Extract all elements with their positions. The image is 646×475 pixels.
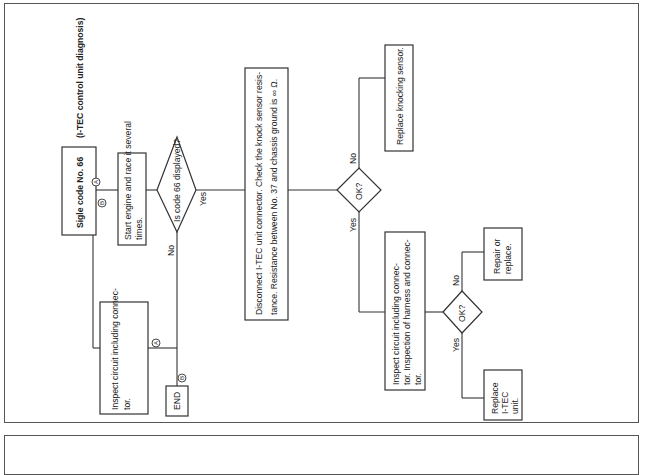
svg-text:Disconnect I-TEC unit connecto: Disconnect I-TEC unit connector. Check t… xyxy=(254,72,264,315)
repair-replace-box: Repair or replace. xyxy=(484,228,522,280)
svg-text:tor.: tor. xyxy=(122,398,132,410)
svg-text:Inspect circuit includin: Inspect circuit including connec- xyxy=(391,263,401,385)
connector-a-bottom: A xyxy=(152,339,160,347)
subtitle-text: (I-TEC control unit diagnosis) xyxy=(75,18,85,138)
svg-text:Is code 66 displayed?: Is code 66 displayed? xyxy=(172,139,182,222)
svg-text:OK?: OK? xyxy=(457,305,467,322)
svg-text:Repair or: Repair or xyxy=(492,239,502,274)
svg-text:A: A xyxy=(93,180,99,184)
start-engine-box: Start engine and race it several times. xyxy=(118,121,146,245)
connector-b-bottom: B xyxy=(178,374,186,382)
svg-text:times.: times. xyxy=(134,217,144,240)
connector-a-top: A xyxy=(92,178,100,186)
svg-text:tance. Resistance between No.: tance. Resistance between No. 37 and cha… xyxy=(269,79,279,315)
svg-text:tor.: tor. xyxy=(413,373,423,385)
yes-label: Yes xyxy=(348,218,358,232)
svg-text:END: END xyxy=(172,392,182,410)
yes-label: Yes xyxy=(198,192,208,206)
svg-text:Start engine and race it sever: Start engine and race it several xyxy=(123,121,133,240)
svg-text:OK?: OK? xyxy=(354,183,364,200)
svg-text:B: B xyxy=(179,376,185,380)
replace-sensor-box: Replace knocking sensor. xyxy=(385,45,413,151)
no-label: No xyxy=(348,153,358,164)
svg-text:I-TEC: I-TEC xyxy=(500,392,510,414)
inspect-circuit-box-2: Inspect circuit including connec- tor. I… xyxy=(385,232,425,390)
replace-unit-box: Replace I-TEC unit. xyxy=(484,370,522,420)
svg-text:A: A xyxy=(153,341,159,345)
svg-text:Replace knocking sensor.: Replace knocking sensor. xyxy=(395,47,405,145)
decision-code66: Is code 66 displayed? Yes No xyxy=(157,137,208,256)
end-box: END xyxy=(166,386,188,416)
connector-b-top: B xyxy=(98,199,106,207)
title-text: Sigle code No. 66 xyxy=(75,157,85,228)
disconnect-box: Disconnect I-TEC unit connector. Check t… xyxy=(245,68,288,320)
svg-text:Replace: Replace xyxy=(490,382,500,414)
svg-text:replace.: replace. xyxy=(503,243,513,274)
no-label: No xyxy=(451,275,461,286)
no-label: No xyxy=(166,245,176,256)
svg-text:tor. Inspection of harness an: tor. Inspection of harness and connec- xyxy=(402,239,412,385)
svg-text:Inspect circuit including conn: Inspect circuit including connec- xyxy=(110,288,120,410)
yes-label: Yes xyxy=(451,338,461,352)
inspect-circuit-box-1: Inspect circuit including connec- tor. xyxy=(100,288,148,414)
svg-text:B: B xyxy=(99,201,105,205)
svg-text:unit.: unit. xyxy=(510,398,520,414)
title-box: Sigle code No. 66 xyxy=(62,147,96,235)
